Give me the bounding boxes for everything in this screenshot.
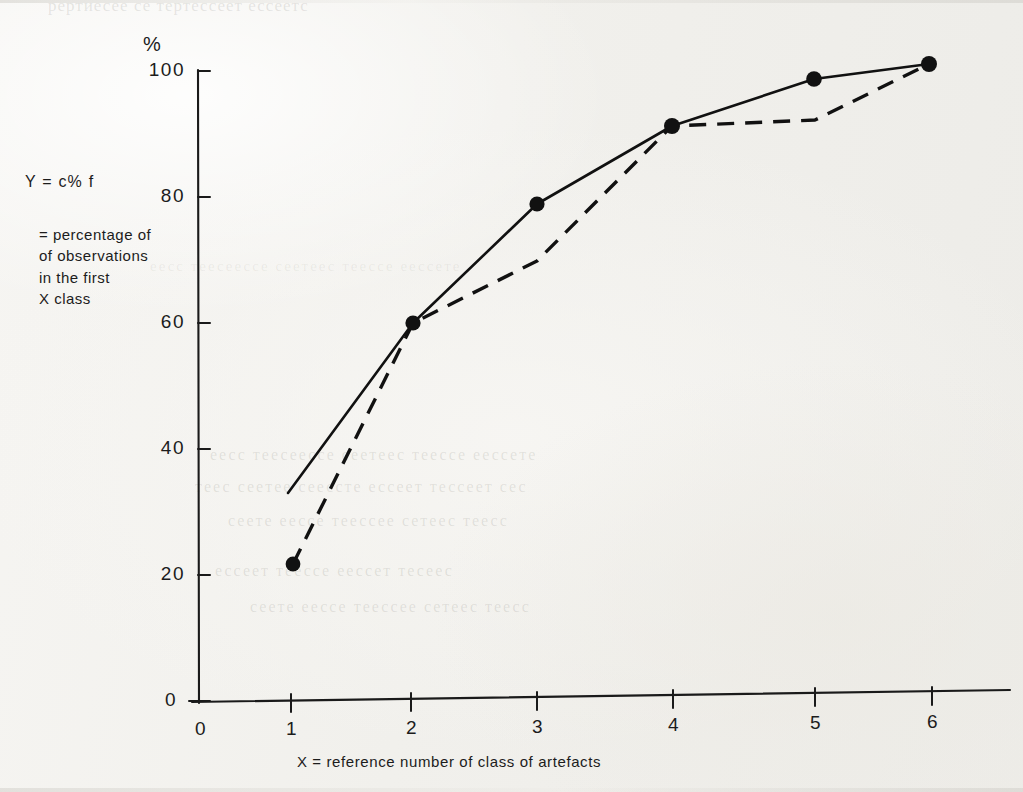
data-point-x3 [529, 196, 544, 211]
y-axis-line [198, 70, 199, 703]
data-point-x1 [286, 557, 301, 572]
data-point-x2 [405, 315, 420, 330]
x-axis-title: X = reference number of class of artefac… [297, 753, 601, 770]
x-tick-label-0: 0 [186, 718, 216, 740]
data-point-markers [286, 56, 937, 571]
y-tick-label-60: 60 [115, 311, 185, 333]
chart-plot-area: % 100 80 60 40 20 0 0 1 2 3 4 5 6 X = re… [0, 0, 1023, 792]
x-tick-label-3: 3 [523, 716, 553, 738]
y-tick-label-0: 0 [115, 689, 177, 711]
x-tick-label-4: 4 [659, 714, 689, 736]
data-point-x4 [664, 118, 680, 134]
dashed-series-line [293, 64, 929, 564]
y-legend-formula: Y = c% f [25, 174, 151, 190]
y-tick-label-100: 100 [115, 59, 185, 81]
y-variable-legend: Y = c% f = percentage of of observations… [25, 174, 151, 309]
x-tick-label-1: 1 [277, 718, 307, 740]
x-tick-label-2: 2 [397, 717, 427, 739]
x-axis-line [192, 690, 1010, 702]
data-point-x6 [921, 56, 937, 72]
data-point-x5 [806, 71, 822, 87]
chart-svg [0, 0, 1023, 792]
y-legend-description: = percentage of of observations in the f… [39, 224, 151, 309]
x-tick-label-6: 6 [918, 711, 948, 733]
scanned-page: рертиесее се тертессеет ессеетс еесс тее… [0, 0, 1023, 792]
solid-series-line [288, 64, 929, 493]
y-axis-unit-label: % [143, 33, 161, 56]
x-tick-label-5: 5 [801, 712, 831, 734]
y-tick-label-20: 20 [115, 563, 185, 585]
y-tick-label-40: 40 [115, 437, 185, 459]
